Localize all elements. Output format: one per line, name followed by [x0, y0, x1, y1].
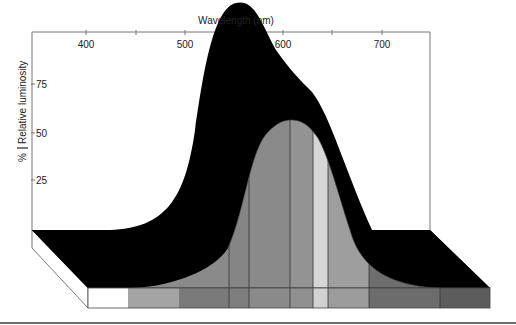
x-axis-title: Wavelength (nm) [198, 15, 274, 26]
x-tick-label-400: 400 [78, 39, 95, 50]
y-tick-label-75: 75 [36, 79, 48, 90]
y-tick-label-50: 50 [36, 128, 48, 139]
spectral-band-strip [88, 288, 490, 308]
y-axis-title: % Relative luminosity [17, 61, 28, 162]
x-tick-label-700: 700 [374, 39, 391, 50]
x-tick-label-600: 600 [275, 39, 292, 50]
page-bottom-rule [0, 322, 516, 324]
x-tick-label-500: 500 [177, 39, 194, 50]
y-axis-unit: % [17, 153, 28, 162]
luminosity-chart: Wavelength (nm) 400 500 600 700 75 50 25… [0, 0, 516, 325]
y-axis-title-text: Relative luminosity [17, 61, 28, 144]
y-tick-label-25: 25 [36, 175, 48, 186]
